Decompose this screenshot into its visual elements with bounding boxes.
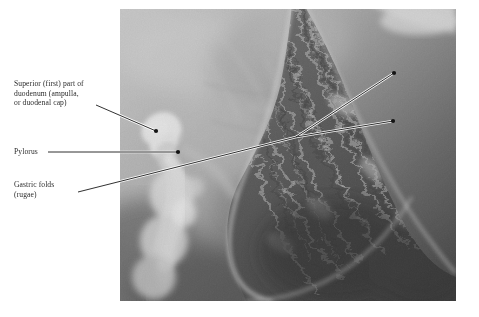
radiograph-figure: Superior (first) part of duodenum (ampul… bbox=[0, 0, 479, 317]
radiograph-image bbox=[120, 9, 456, 301]
label-gastric-folds: Gastric folds (rugae) bbox=[14, 180, 86, 199]
label-pylorus: Pylorus bbox=[14, 147, 74, 157]
label-duodenum: Superior (first) part of duodenum (ampul… bbox=[14, 79, 118, 108]
radiograph-plate bbox=[120, 9, 456, 301]
